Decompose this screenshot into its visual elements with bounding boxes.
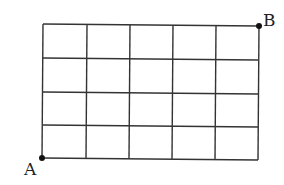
- grid-line-v-3: [172, 25, 173, 159]
- grid-diagram: A B: [0, 0, 284, 185]
- grid-line-h-1: [43, 58, 258, 60]
- grid-line-h-3: [43, 125, 258, 127]
- grid-line-h-0: [43, 24, 259, 26]
- grid-line-v-4: [215, 26, 216, 160]
- point-a-label: A: [23, 159, 37, 179]
- grid-line-v-0: [42, 24, 43, 158]
- point-b-dot: [256, 23, 262, 29]
- grid-line-h-4: [42, 158, 258, 160]
- grid-line-v-1: [86, 25, 87, 159]
- point-b-label: B: [263, 10, 276, 30]
- grid-line-v-2: [129, 25, 130, 159]
- point-a-dot: [39, 155, 45, 161]
- grid-line-h-2: [43, 92, 258, 94]
- grid-lines: [42, 24, 259, 160]
- grid-line-v-5: [258, 26, 259, 160]
